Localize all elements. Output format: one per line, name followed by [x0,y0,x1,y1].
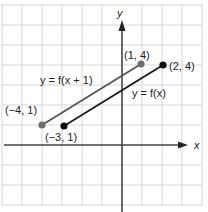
point-label-end: (1, 4) [124,49,150,61]
y-axis-label: y [116,7,124,19]
endpoint-dot-icon [159,61,166,68]
endpoint-dot-icon [60,122,67,129]
x-axis-arrow-icon [178,142,188,149]
endpoint-dot-icon [137,60,144,67]
point-label-start: (−4, 1) [5,104,37,116]
equation-label: y = f(x) [132,87,166,99]
segment-f-of-x-plus-1: (−4, 1) (1, 4) y = f(x + 1) [5,49,150,129]
endpoint-dot-icon [38,121,45,128]
point-label-end: (2, 4) [169,60,195,72]
segment-f-of-x: (−3, 1) (2, 4) y = f(x) [45,60,195,143]
equation-label: y = f(x + 1) [40,74,93,86]
coordinate-plane: x y (−4, 1) (1, 4) y = f(x + 1) (−3, 1) … [0,0,208,212]
x-axis-label: x [193,139,200,151]
point-label-start: (−3, 1) [45,131,77,143]
y-axis: y [116,7,126,212]
